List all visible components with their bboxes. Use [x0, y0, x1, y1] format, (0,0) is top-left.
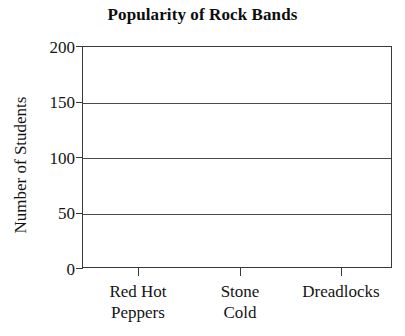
- x-tick-mark-red-hot-peppers: [138, 268, 139, 276]
- chart-figure: Popularity of Rock Bands Number of Stude…: [0, 0, 405, 336]
- gridline-50: [83, 214, 391, 215]
- plot-area: [82, 46, 392, 268]
- x-tick-mark-stone-cold: [240, 268, 241, 276]
- y-tick-label-200: 200: [15, 39, 75, 56]
- y-tick-label-100: 100: [15, 150, 75, 167]
- gridline-150: [83, 103, 391, 104]
- x-tick-label-dreadlocks: Dreadlocks: [271, 281, 405, 302]
- y-tick-mark-0: [76, 268, 83, 269]
- y-tick-label-50: 50: [15, 205, 75, 222]
- x-tick-label-line-2: Cold: [170, 302, 310, 323]
- x-tick-label-line-1: Dreadlocks: [271, 281, 405, 302]
- x-tick-mark-dreadlocks: [341, 268, 342, 276]
- gridline-100: [83, 158, 391, 159]
- chart-title: Popularity of Rock Bands: [0, 5, 405, 25]
- y-tick-label-150: 150: [15, 94, 75, 111]
- y-tick-label-0: 0: [15, 261, 75, 278]
